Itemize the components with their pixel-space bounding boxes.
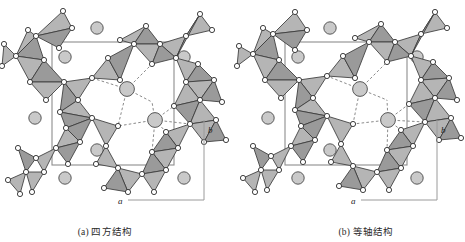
vertex-atom [149, 149, 154, 154]
vertex-atom [374, 169, 379, 174]
vertex-atom [328, 159, 333, 164]
vertex-atom [105, 55, 110, 60]
vertex-atom [252, 189, 257, 194]
vertex-atom [350, 121, 355, 126]
vertex-atom [454, 97, 459, 102]
cation-circle [353, 82, 368, 97]
vertex-atom [0, 63, 5, 68]
vertex-atom [338, 141, 343, 146]
cation-circle [292, 172, 304, 184]
vertex-atom [392, 39, 397, 44]
caption-panel-b: (b) 等轴结构 [233, 224, 465, 238]
vertex-atom [77, 139, 82, 144]
vertex-atom [101, 185, 106, 190]
vertex-atom [360, 187, 365, 192]
vertex-atom [418, 31, 423, 36]
vertex-atom [384, 147, 389, 152]
vertex-atom [69, 25, 74, 30]
vertex-atom [5, 177, 10, 182]
vertex-atom [350, 163, 355, 168]
vertex-atom [386, 187, 391, 192]
vertex-atom [336, 183, 341, 188]
vertex-atom [430, 59, 435, 64]
vertex-atom [183, 79, 188, 84]
axis-label-b: b [208, 125, 213, 135]
cation-circle [411, 172, 423, 184]
cation-circle [59, 51, 71, 63]
cation-circle [381, 113, 396, 128]
vertex-atom [29, 189, 34, 194]
vertex-atom [340, 53, 345, 58]
vertex-atom [312, 137, 317, 142]
vertex-atom [53, 145, 58, 150]
tetrahedra-group [237, 12, 461, 192]
vertex-atom [211, 77, 216, 82]
vertex-atom [151, 189, 156, 194]
vertex-atom [89, 115, 94, 120]
vertex-atom [292, 107, 297, 112]
vertex-atom [292, 47, 297, 52]
vertex-atom [352, 35, 357, 40]
tetrahedron [243, 170, 261, 192]
vertex-atom [270, 31, 275, 36]
axis-label-a: a [351, 196, 356, 206]
vertex-atom [173, 55, 178, 60]
vertex-atom [163, 167, 168, 172]
vertex-atom [143, 23, 148, 28]
caption-panel-a: (a) 四方结构 [0, 224, 232, 238]
vertex-atom [15, 145, 20, 150]
vertex-atom [458, 135, 463, 140]
vertex-atom [33, 33, 38, 38]
vertex-atom [75, 97, 80, 102]
vertex-atom [117, 77, 122, 82]
vertex-atom [171, 103, 176, 108]
vertex-atom [276, 57, 281, 62]
vertex-atom [352, 75, 357, 80]
vertex-atom [157, 41, 162, 46]
cation-circle [148, 113, 163, 128]
vertex-atom [398, 165, 403, 170]
vertex-atom [422, 119, 427, 124]
vertex-atom [17, 191, 22, 196]
vertex-atom [410, 143, 415, 148]
vertex-atom [213, 117, 218, 122]
vertex-atom [197, 11, 202, 16]
tetrahedron [92, 118, 118, 146]
tetrahedron [327, 116, 353, 144]
vertex-atom [115, 123, 120, 128]
vertex-atom [276, 167, 281, 172]
vertex-atom [89, 75, 94, 80]
cation-circle [91, 22, 103, 34]
vertex-atom [448, 115, 453, 120]
vertex-atom [41, 169, 46, 174]
vertex-atom [260, 25, 265, 30]
vertex-atom [418, 77, 423, 82]
vertex-atom [250, 51, 255, 56]
vertex-atom [209, 27, 214, 32]
vertex-atom [175, 145, 180, 150]
vertex-atom [139, 171, 144, 176]
tetrahedron [253, 146, 271, 170]
vertex-atom [268, 153, 273, 158]
vertex-atom [324, 113, 329, 118]
vertex-atom [278, 95, 283, 100]
vertex-atom [236, 43, 241, 48]
cation-circle [324, 144, 336, 156]
vertex-atom [25, 27, 30, 32]
vertex-atom [93, 161, 98, 166]
cation-circle [262, 112, 274, 124]
vertex-atom [240, 175, 245, 180]
vertex-atom [195, 61, 200, 66]
vertex-atom [292, 9, 297, 14]
vertex-atom [27, 79, 32, 84]
axis-label-a: a [118, 196, 123, 206]
tetrahedron [26, 172, 44, 192]
vertex-atom [183, 33, 188, 38]
vertex-atom [61, 79, 66, 84]
figure-container: ba (a) 四方结构 ba (b) 等轴结构 [0, 0, 465, 242]
vertex-atom [406, 101, 411, 106]
cation-circle [59, 172, 71, 184]
vertex-atom [288, 143, 293, 148]
vertex-atom [43, 97, 48, 102]
structure-diagram-tetragonal: ba [0, 0, 232, 215]
